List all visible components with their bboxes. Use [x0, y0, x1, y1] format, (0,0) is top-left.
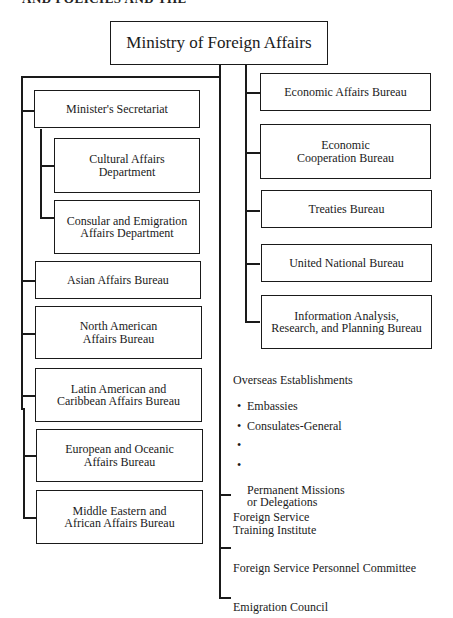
org-box-label: Economic Cooperation Bureau	[297, 139, 394, 164]
connector-line	[219, 64, 221, 599]
org-box-label: Treaties Bureau	[309, 203, 385, 216]
ministry-label: Ministry of Foreign Affairs	[126, 34, 311, 52]
org-box-united-national: United National Bureau	[261, 244, 432, 282]
connector-line	[245, 210, 260, 212]
org-box-information-analysis: Information Analysis, Research, and Plan…	[261, 295, 432, 349]
list-item: • Permanent Missions or Delegations	[237, 459, 345, 509]
bullet-icon: •	[237, 420, 241, 433]
org-box-label: Latin American and Caribbean Affairs Bur…	[57, 383, 180, 408]
unit-foreign-service-training: Foreign Service Training Institute	[233, 511, 316, 536]
page-header-clipped: AND POLICIES AND THE	[22, 0, 187, 7]
list-item: • Consulates-General	[237, 420, 345, 433]
bullet-icon: •	[237, 400, 241, 413]
connector-line	[245, 321, 260, 323]
connector-line	[23, 517, 37, 519]
connector-line	[40, 217, 54, 219]
connector-line	[245, 152, 260, 154]
connector-line	[40, 165, 54, 167]
org-box-label: North American Affairs Bureau	[80, 320, 158, 345]
org-box-asian-affairs: Asian Affairs Bureau	[35, 261, 201, 299]
org-box-latin-american-caribbean: Latin American and Caribbean Affairs Bur…	[35, 368, 202, 422]
connector-line	[245, 92, 260, 94]
connector-line	[21, 333, 35, 335]
org-box-north-american: North American Affairs Bureau	[35, 306, 202, 359]
org-box-middle-eastern-african: Middle Eastern and African Affairs Burea…	[36, 490, 203, 544]
connector-line	[245, 64, 247, 323]
org-box-european-oceanic: European and Oceanic Affairs Bureau	[36, 429, 203, 482]
connector-line	[219, 494, 231, 496]
list-item-label: Embassies	[247, 399, 298, 413]
connector-line	[23, 455, 37, 457]
connector-line	[23, 408, 25, 518]
org-box-label: Economic Affairs Bureau	[284, 86, 406, 99]
org-box-label: Asian Affairs Bureau	[67, 274, 169, 287]
org-box-economic-affairs: Economic Affairs Bureau	[260, 73, 431, 111]
org-box-consular-emigration: Consular and Emigration Affairs Departme…	[54, 200, 200, 254]
org-box-label: Minister's Secretariat	[66, 103, 168, 116]
list-item: • Embassies	[237, 400, 345, 413]
org-box-ministers-secretariat: Minister's Secretariat	[34, 90, 200, 128]
connector-line	[219, 597, 231, 599]
bullet-icon: •	[237, 439, 241, 452]
org-box-treaties: Treaties Bureau	[261, 190, 432, 228]
list-item-label: Permanent Missions or Delegations	[247, 483, 345, 510]
connector-line	[219, 547, 231, 549]
org-box-economic-cooperation: Economic Cooperation Bureau	[260, 124, 431, 179]
list-item: •	[237, 439, 345, 452]
org-box-label: Information Analysis, Research, and Plan…	[271, 310, 422, 335]
org-box-label: European and Oceanic Affairs Bureau	[65, 443, 174, 468]
connector-line	[40, 129, 42, 219]
bullet-icon: •	[237, 459, 241, 472]
org-box-label: Cultural Affairs Department	[89, 153, 164, 178]
overseas-establishments-list: • Embassies • Consulates-General • • Per…	[237, 400, 345, 509]
connector-line	[21, 110, 35, 112]
overseas-establishments-title: Overseas Establishments	[233, 374, 353, 387]
ministry-box: Ministry of Foreign Affairs	[110, 21, 328, 65]
connector-line	[245, 263, 260, 265]
unit-foreign-service-personnel: Foreign Service Personnel Committee	[233, 562, 416, 575]
unit-emigration-council: Emigration Council	[233, 601, 328, 614]
org-box-label: Consular and Emigration Affairs Departme…	[67, 215, 188, 240]
connector-line	[21, 76, 23, 410]
org-box-label: Middle Eastern and African Affairs Burea…	[64, 505, 174, 530]
connector-line	[21, 395, 35, 397]
org-box-label: United National Bureau	[289, 257, 404, 270]
list-item-label: Consulates-General	[247, 419, 342, 433]
org-box-cultural-affairs: Cultural Affairs Department	[54, 138, 200, 193]
connector-line	[21, 76, 221, 78]
connector-line	[21, 280, 35, 282]
